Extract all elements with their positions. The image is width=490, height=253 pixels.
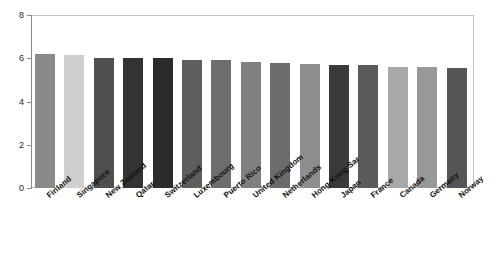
bar-switzerland — [153, 58, 173, 188]
bar-chart: 02468 FinlandSingaporeNew ZealandQatarSw… — [0, 0, 490, 253]
bar-singapore — [64, 55, 84, 188]
bar-norway — [447, 68, 467, 188]
bar-finland — [35, 54, 55, 188]
bar-france — [358, 65, 378, 188]
bar-germany — [417, 67, 437, 188]
bars-layer — [0, 0, 490, 253]
bar-canada — [388, 67, 408, 188]
